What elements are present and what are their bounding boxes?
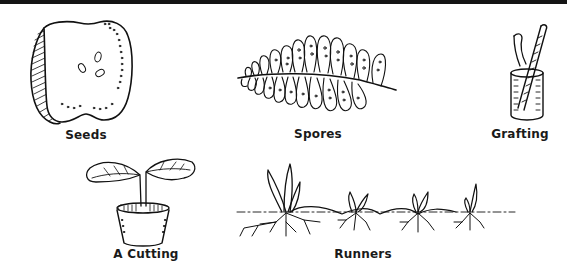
panel-runners: Runners bbox=[0, 0, 567, 267]
label-runners: Runners bbox=[334, 247, 391, 261]
runner-plants-icon bbox=[0, 0, 567, 267]
